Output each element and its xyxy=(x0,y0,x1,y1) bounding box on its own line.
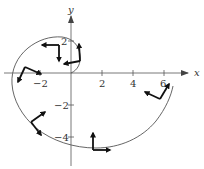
chart-canvas: −2 2 4 6 2 −2 −4 x y xyxy=(0,0,204,169)
normal-vector xyxy=(145,92,160,99)
x-tick-label: 4 xyxy=(130,78,136,89)
tangent-vector xyxy=(18,67,25,82)
vector-pairs xyxy=(18,44,169,150)
normal-vector xyxy=(31,112,45,122)
x-tick-label: 6 xyxy=(160,78,166,89)
spiral-curve xyxy=(12,37,173,148)
x-axis-label: x xyxy=(194,67,200,78)
x-tick-label: −2 xyxy=(33,78,48,89)
y-axis-label: y xyxy=(67,4,74,15)
y-tick-label: −4 xyxy=(54,132,69,143)
y-tick-label: −2 xyxy=(54,100,69,111)
axes: −2 2 4 6 2 −2 −4 x y xyxy=(4,4,200,166)
normal-vector xyxy=(64,61,80,64)
spiral-chart: −2 2 4 6 2 −2 −4 x y xyxy=(0,0,204,169)
tangent-vector xyxy=(79,44,80,61)
x-tick-label: 2 xyxy=(99,78,105,89)
tangent-vector xyxy=(31,122,41,135)
